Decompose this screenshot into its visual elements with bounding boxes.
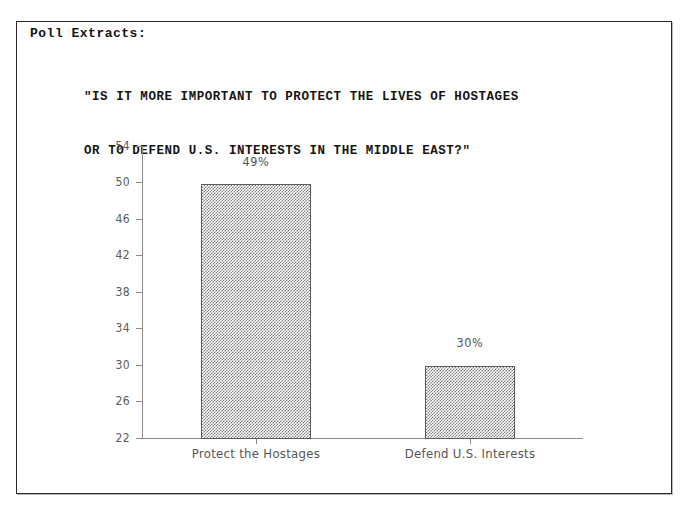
y-axis-label: 46 (104, 213, 130, 225)
y-axis-tick (136, 292, 142, 293)
y-axis-tick (136, 182, 142, 183)
y-axis-tick (136, 146, 142, 147)
y-axis-tick (136, 365, 142, 366)
y-axis-label: 26 (104, 395, 130, 407)
y-axis-label: 54 (104, 140, 130, 152)
x-axis-category-label: Protect the Hostages (176, 446, 336, 461)
bar-chart: 54 50 46 42 38 34 30 26 22 49% 30% Prote… (0, 0, 687, 514)
y-axis-label: 30 (104, 359, 130, 371)
y-axis-tick (136, 401, 142, 402)
y-axis-label: 42 (104, 249, 130, 261)
y-axis-line (142, 146, 143, 439)
y-axis-label: 50 (104, 176, 130, 188)
y-axis-tick (136, 328, 142, 329)
bar-protect-the-hostages[interactable] (201, 184, 311, 439)
bar-value-label: 30% (425, 336, 515, 349)
y-axis-label: 38 (104, 286, 130, 298)
y-axis-tick (136, 219, 142, 220)
y-axis-tick (136, 255, 142, 256)
x-axis-tick (470, 439, 471, 444)
bar-defend-us-interests[interactable] (425, 366, 515, 439)
x-axis-category-label: Defend U.S. Interests (392, 446, 548, 461)
bar-value-label: 49% (201, 155, 311, 168)
y-axis-tick (136, 438, 142, 439)
y-axis-label: 34 (104, 322, 130, 334)
y-axis-label: 22 (104, 432, 130, 444)
x-axis-tick (256, 439, 257, 444)
